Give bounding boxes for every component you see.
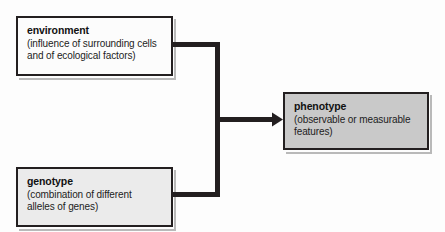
node-genotype-title: genotype [27,175,162,188]
node-genotype-description-line2: alleles of genes) [27,201,162,213]
diagram-canvas: environment (influence of surrounding ce… [0,0,445,232]
phenotype-box-shadow [286,152,432,154]
genotype-box-shadow [19,229,176,231]
node-environment-title: environment [27,24,162,37]
phenotype-box-shadow-right [430,95,432,154]
connector-arrow-head [272,113,283,127]
node-phenotype-description-line2: features) [294,126,418,138]
node-environment-description-line2: and of ecological factors) [27,50,162,62]
node-genotype-description-line1: (combination of different [27,189,162,201]
connector-stub-environment [171,42,220,47]
node-phenotype[interactable]: phenotype (observable or measurable feat… [283,92,429,150]
node-environment-description-line1: (influence of surrounding cells [27,38,162,50]
connector-arrow-shaft [218,117,274,122]
node-phenotype-description-line1: (observable or measurable [294,114,418,126]
connector-stub-genotype [171,192,220,197]
node-phenotype-title: phenotype [294,100,418,113]
genotype-box-shadow-right [174,170,176,231]
environment-box-shadow-right [174,19,176,80]
node-genotype[interactable]: genotype (combination of different allel… [16,167,173,227]
node-environment[interactable]: environment (influence of surrounding ce… [16,16,173,76]
connector-vertical-bar [215,42,220,197]
environment-box-shadow [19,78,176,80]
